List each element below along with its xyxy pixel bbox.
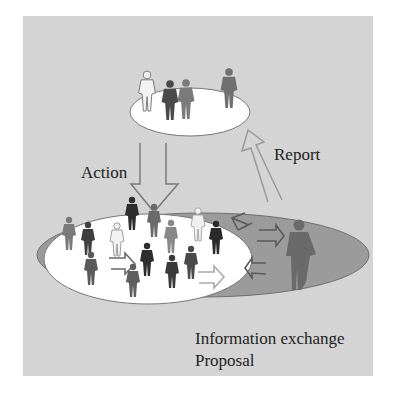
info-exchange-label: Information exchange xyxy=(195,330,345,347)
proposal-label: Proposal xyxy=(195,352,255,369)
report-label: Report xyxy=(274,146,320,163)
action-label: Action xyxy=(81,164,127,181)
action-arrow-icon xyxy=(131,143,178,212)
report-arrow-icon xyxy=(242,130,282,202)
